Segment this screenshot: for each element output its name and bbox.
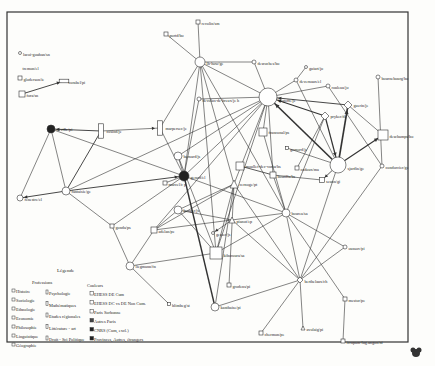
node-bournebourg[interactable]: bournebourg/bo [376, 75, 408, 81]
legend-color-swatch [90, 319, 94, 323]
node-marcel[interactable]: marcel/c p [163, 181, 186, 187]
node-grodens[interactable]: grodens/pi [227, 283, 251, 289]
node-shape [301, 326, 305, 330]
node-adelan[interactable]: adelan/pe [151, 227, 175, 234]
node-fora[interactable]: fora/sn [19, 91, 39, 98]
node-label: avolaig/pi [307, 327, 325, 332]
edge [178, 156, 216, 253]
node-label: franconal/ps [269, 130, 290, 135]
node-icrupam[interactable]: icrupam-lug.angon/ni [341, 339, 384, 345]
node-neville[interactable]: neville/pi [47, 125, 73, 133]
node-cernoge[interactable]: cernoge/pt [230, 180, 258, 188]
node-gomord[interactable]: gomord/je [286, 147, 308, 152]
node-label: pianot/ep [237, 219, 253, 224]
node-fenestre[interactable]: fenestre/el [17, 195, 43, 202]
node-shape [321, 112, 329, 120]
legend-color-swatch [90, 292, 94, 296]
node-condorcier[interactable]: condorcier/ge [380, 164, 409, 170]
node-shape [378, 130, 388, 140]
edge [112, 226, 130, 266]
node-label: pryker/de [331, 114, 347, 119]
node-cadoux[interactable]: cadoux/ma [295, 166, 319, 172]
node-rouleau[interactable]: rouleau/jo [326, 84, 348, 90]
node-label: lacoi-gouhan/sn [23, 52, 51, 57]
node-label: gesser/js [216, 232, 231, 237]
node-label: blimbeg/st [172, 303, 191, 308]
legend-shape-icon [46, 336, 48, 340]
node-blimbeg[interactable]: blimbeg/st [168, 303, 191, 308]
node-portd[interactable]: portd/bo [164, 32, 184, 38]
node-oussov[interactable]: oussov/pi [343, 245, 365, 251]
edge [200, 62, 286, 213]
node-lhon[interactable]: lh-how/ge [195, 57, 224, 67]
node-marpersec[interactable]: marpersec/je [158, 121, 187, 135]
node-guiart[interactable]: guiart/jo [305, 66, 324, 71]
node-seuon[interactable]: seuon/gi [320, 178, 342, 184]
legend: LégendeProfessionsCouleursHistoireSociol… [12, 268, 146, 348]
edge [130, 230, 154, 266]
node-pianot[interactable]: pianot/ep [229, 217, 252, 224]
node-franconal[interactable]: franconal/ps [259, 128, 290, 136]
node-mestor[interactable]: mestor/pe [343, 297, 365, 303]
edge [178, 97, 268, 156]
node-shape [151, 227, 157, 233]
node-devolus[interactable]: devolus-de-breux/je h [197, 97, 240, 103]
node-kiboroura[interactable]: kiboroura/sa [210, 247, 245, 259]
node-desroches[interactable]: desroches/bo [252, 60, 279, 66]
node-label: icrupam-lug.angon/ni [347, 340, 384, 345]
node-label: berthelaux/ch [305, 279, 329, 284]
node-liegmann[interactable]: liegmann/fn [126, 262, 157, 270]
edge [378, 77, 382, 166]
node-corabel[interactable]: corabel/pi [59, 79, 86, 84]
node-label: bournebourg/bo [382, 76, 409, 81]
node-moullet[interactable]: moullet-dec-voriu/bs [236, 162, 281, 170]
node-shape [344, 101, 352, 109]
legend-text: CNRS (Cum, excl.) [94, 328, 129, 334]
node-shape [17, 195, 23, 201]
legend-text: Légende [57, 268, 75, 273]
node-shape [59, 79, 69, 83]
node-label: boutilla/bs [278, 174, 296, 179]
node-label: gonda/ps [116, 225, 131, 230]
node-tremon[interactable]: tremon/el [23, 66, 40, 71]
node-boutilla[interactable]: boutilla/bs [270, 172, 296, 179]
node-label: neville/pi [57, 127, 74, 132]
publisher-logo-icon [411, 348, 422, 358]
legend-text: Mathématiques [49, 303, 76, 308]
edge [343, 299, 345, 341]
node-shape [174, 206, 182, 214]
node-shape [270, 172, 276, 178]
node-bourea[interactable]: bourea/sa [282, 209, 308, 217]
node-bogoffe[interactable]: bogoffe/je [259, 88, 296, 106]
node-chermon[interactable]: chermon/pe [259, 331, 284, 337]
legend-shape-icon [12, 289, 15, 292]
edge [216, 97, 268, 253]
node-shape [212, 232, 215, 235]
node-gerard[interactable]: gerard/el [179, 171, 206, 181]
edge [296, 80, 338, 165]
node-cosind[interactable]: cosind/je [99, 124, 122, 138]
edge [66, 191, 112, 226]
legend-text: EHESS DC vs DE Non Cum. [94, 301, 146, 306]
node-label: marpersec/je [166, 126, 188, 131]
node-label: cosind/je [107, 129, 122, 134]
node-gloderson[interactable]: gloderson/ie [18, 76, 44, 82]
node-revolin[interactable]: revolin/sm [196, 20, 220, 26]
node-bouger[interactable]: bouger/js [174, 206, 199, 214]
node-shape [110, 224, 114, 228]
node-avolaig[interactable]: avolaig/pi [301, 326, 324, 332]
legend-text: Littérature - art [49, 326, 77, 331]
node-shape [211, 303, 219, 311]
legend-color-swatch [90, 337, 94, 341]
node-shape [19, 52, 22, 55]
node-guerin[interactable]: guerin/je [344, 101, 369, 109]
node-label: devolus-de-breux/je h [203, 98, 241, 103]
node-shape [230, 180, 238, 188]
node-label: devernaux/el [300, 79, 322, 84]
node-kanthaise[interactable]: kanthaise/pi [211, 303, 242, 311]
node-deveruaux[interactable]: devernaux/el [294, 78, 322, 84]
node-shape [341, 339, 345, 343]
node-lacoi[interactable]: lacoi-gouhan/sn [19, 52, 51, 57]
node-pryker[interactable]: pryker/de [321, 112, 347, 120]
node-label: bernard/js [184, 154, 201, 159]
